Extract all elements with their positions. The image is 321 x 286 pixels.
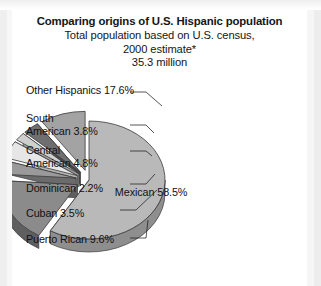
pie-chart-svg: [12, 70, 307, 280]
slice-label-other-hispanics: Other Hispanics 17.6%: [26, 84, 134, 97]
chart-title-block: Comparing origins of U.S. Hispanic popul…: [12, 14, 307, 70]
slice-label-mexican: Mexican 58.5%: [115, 186, 188, 198]
chart-subtitle-line-2: 2000 estimate*: [12, 43, 307, 57]
chart-title: Comparing origins of U.S. Hispanic popul…: [12, 14, 307, 29]
slice-label-central-american: Central American 4.8%: [26, 144, 98, 169]
slice-label-puerto-rican: Puerto Rican 9.6%: [26, 233, 114, 246]
slice-label-dominican: Dominican 2.2%: [26, 182, 103, 195]
pie-chart-area: Mexican 58.5%: [12, 70, 307, 280]
chart-subtitle-line-1: Total population based on U.S. census,: [12, 29, 307, 43]
slice-label-cuban: Cuban 3.5%: [26, 207, 84, 220]
chart-subtitle-line-3: 35.3 million: [12, 56, 307, 70]
slice-label-south-american: South American 3.8%: [26, 112, 98, 137]
chart-screenshot: Comparing origins of U.S. Hispanic popul…: [0, 0, 321, 286]
chart-content: Comparing origins of U.S. Hispanic popul…: [12, 8, 307, 280]
